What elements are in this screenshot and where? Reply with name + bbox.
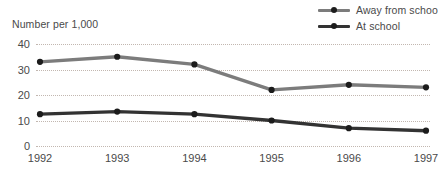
legend-label-away-from-school: Away from schoo	[356, 4, 438, 16]
data-point[interactable]	[37, 111, 43, 117]
data-point[interactable]	[423, 128, 429, 134]
data-point[interactable]	[37, 59, 43, 65]
data-point[interactable]	[346, 82, 352, 88]
data-point[interactable]	[423, 84, 429, 90]
data-point[interactable]	[191, 111, 197, 117]
data-point[interactable]	[114, 108, 120, 114]
y-axis-tick-label: 10	[4, 115, 30, 127]
data-point[interactable]	[269, 117, 275, 123]
gridline	[36, 146, 430, 147]
data-point[interactable]	[346, 125, 352, 131]
legend-swatch-at-school	[318, 20, 350, 32]
legend-item-at-school[interactable]: At school	[318, 18, 443, 34]
legend-marker-icon	[331, 23, 337, 29]
data-point[interactable]	[114, 54, 120, 60]
x-axis-tick-label: 1992	[28, 152, 52, 164]
x-axis-tick-label: 1995	[259, 152, 283, 164]
series-line	[40, 57, 426, 90]
series-line	[40, 112, 426, 131]
y-axis-tick-label: 0	[4, 140, 30, 152]
x-axis-tick-label: 1996	[337, 152, 361, 164]
y-axis-tick-label: 30	[4, 64, 30, 76]
y-axis-title: Number per 1,000	[12, 18, 98, 30]
plot-area	[36, 44, 430, 146]
legend-item-away-from-school[interactable]: Away from schoo	[318, 2, 443, 18]
legend-label-at-school: At school	[356, 20, 400, 32]
legend-marker-icon	[331, 7, 337, 13]
x-axis-tick-label: 1997	[414, 152, 438, 164]
y-axis-tick-label: 20	[4, 89, 30, 101]
legend-swatch-away-from-school	[318, 4, 350, 16]
y-axis-tick-label: 40	[4, 38, 30, 50]
data-point[interactable]	[191, 61, 197, 67]
data-point[interactable]	[269, 87, 275, 93]
x-axis-tick-label: 1994	[182, 152, 206, 164]
series-1	[37, 54, 429, 93]
series-container	[36, 44, 430, 146]
series-2	[37, 108, 429, 133]
x-axis-tick-label: 1993	[105, 152, 129, 164]
y-axis-tick-labels: 403020100	[4, 44, 30, 146]
chart-legend: Away from schoo At school	[318, 2, 443, 34]
x-axis-tick-labels: 199219931994199519961997	[36, 152, 430, 168]
